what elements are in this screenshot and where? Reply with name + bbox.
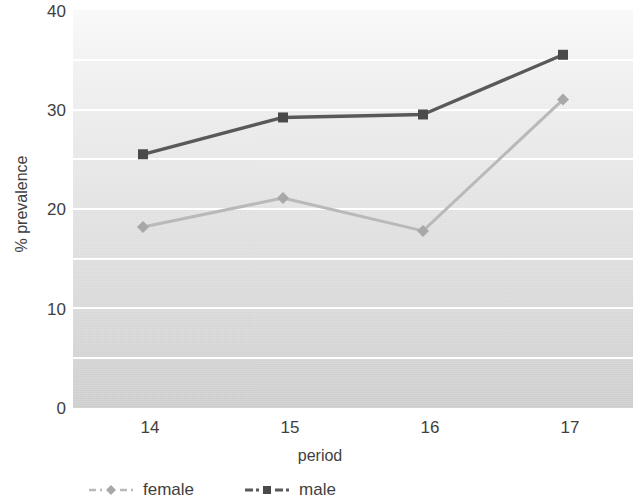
data-point-marker: [138, 149, 148, 159]
data-point-marker: [558, 50, 568, 60]
legend-label-female: female: [143, 481, 194, 498]
legend-item-female[interactable]: female: [88, 481, 194, 498]
x-tick-label-16: 16: [400, 418, 460, 438]
x-axis-title: period: [0, 447, 640, 465]
series-male: [138, 50, 568, 159]
y-tick-label-10: 10: [4, 301, 66, 318]
y-tick-label-40: 40: [4, 3, 66, 20]
legend-label-male: male: [299, 481, 336, 498]
chart-legend: female male: [0, 481, 640, 498]
x-tick-label-14: 14: [120, 418, 180, 438]
diamond-marker-icon: [88, 482, 134, 498]
data-point-marker: [277, 192, 289, 204]
data-point-marker: [418, 109, 428, 119]
series-layer: [73, 10, 633, 408]
y-tick-label-0: 0: [4, 400, 66, 417]
legend-item-male[interactable]: male: [244, 481, 336, 498]
series-line-female: [143, 100, 563, 231]
x-tick-label-15: 15: [260, 418, 320, 438]
plot-area: [73, 10, 633, 408]
y-axis-ticks: 40 30 20 10 0: [0, 0, 66, 418]
x-tick-label-17: 17: [540, 418, 600, 438]
y-axis-title: % prevalence: [13, 124, 31, 284]
y-tick-label-30: 30: [4, 102, 66, 119]
square-marker-icon: [244, 482, 290, 498]
data-point-marker: [278, 112, 288, 122]
line-chart: 40 30 20 10 0 % prevalence 14 15 16 17 p…: [0, 0, 640, 503]
series-line-male: [143, 55, 563, 155]
data-point-marker: [137, 221, 149, 233]
